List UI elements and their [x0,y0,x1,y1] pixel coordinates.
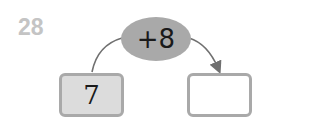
left-connector-line [92,38,122,72]
right-arrow-line [189,38,218,68]
answer-box[interactable] [187,73,252,117]
start-number-box: 7 [59,73,124,117]
operation-label: +8 [121,17,191,61]
start-number-value: 7 [83,80,100,110]
